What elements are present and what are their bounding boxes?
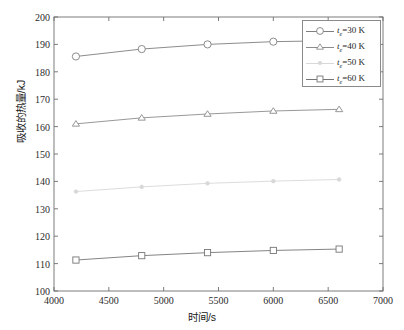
data-point-marker bbox=[140, 185, 144, 189]
x-axis-label: 时间/s bbox=[0, 309, 404, 324]
data-point-marker bbox=[336, 246, 342, 252]
legend-label: te=50 K bbox=[337, 57, 365, 69]
legend-marker-sample bbox=[303, 71, 337, 87]
data-point-marker bbox=[271, 179, 275, 183]
legend-item[interactable]: te=40 K bbox=[303, 39, 382, 55]
data-point-marker bbox=[138, 45, 145, 52]
legend-label: te=60 K bbox=[337, 73, 365, 85]
data-series bbox=[73, 246, 342, 263]
x-tick-label: 5500 bbox=[209, 295, 229, 306]
y-tick-label: 110 bbox=[22, 258, 50, 269]
legend-item[interactable]: te=60 K bbox=[303, 71, 382, 87]
data-series bbox=[72, 106, 342, 126]
legend-item[interactable]: te=30 K bbox=[303, 23, 382, 39]
y-tick-label: 200 bbox=[22, 12, 50, 23]
legend-marker-icon bbox=[314, 73, 326, 85]
data-point-marker bbox=[337, 178, 341, 182]
data-point-marker bbox=[206, 181, 210, 185]
legend-item[interactable]: te=50 K bbox=[303, 55, 382, 71]
y-tick-label: 100 bbox=[22, 286, 50, 297]
data-point-marker bbox=[336, 106, 343, 112]
x-tick-label: 4500 bbox=[99, 295, 119, 306]
legend-marker-sample bbox=[303, 23, 337, 39]
chart-figure: 4000450050005500600065007000 10011012013… bbox=[0, 0, 404, 330]
data-point-marker bbox=[204, 41, 211, 48]
data-point-marker bbox=[318, 61, 322, 65]
legend-marker-sample bbox=[303, 39, 337, 55]
legend-marker-icon bbox=[314, 41, 326, 53]
x-tick-label: 6000 bbox=[263, 295, 283, 306]
x-tick-label: 5000 bbox=[154, 295, 174, 306]
data-point-marker bbox=[72, 53, 79, 60]
data-point-marker bbox=[317, 28, 324, 35]
data-point-marker bbox=[139, 253, 145, 259]
y-tick-label: 130 bbox=[22, 203, 50, 214]
chart-legend: te=30 Kte=40 Kte=50 Kte=60 K bbox=[302, 20, 381, 87]
y-tick-label: 120 bbox=[22, 231, 50, 242]
data-point-marker bbox=[270, 247, 276, 253]
data-point-marker bbox=[74, 190, 78, 194]
legend-marker-icon bbox=[314, 57, 326, 69]
legend-label: te=40 K bbox=[337, 41, 365, 53]
y-tick-label: 190 bbox=[22, 39, 50, 50]
x-tick-label: 4000 bbox=[44, 295, 64, 306]
x-tick-label: 7000 bbox=[373, 295, 393, 306]
data-point-marker bbox=[317, 44, 324, 49]
data-point-marker bbox=[270, 38, 277, 45]
data-point-marker bbox=[204, 250, 210, 256]
data-point-marker bbox=[73, 257, 79, 263]
x-tick-label: 6500 bbox=[318, 295, 338, 306]
legend-marker-sample bbox=[303, 55, 337, 71]
legend-label: te=30 K bbox=[337, 25, 365, 37]
data-point-marker bbox=[317, 76, 323, 82]
legend-marker-icon bbox=[314, 25, 326, 37]
y-tick-label: 140 bbox=[22, 176, 50, 187]
data-series bbox=[74, 178, 341, 194]
y-axis-label: 吸收的热量/kJ bbox=[13, 62, 28, 162]
